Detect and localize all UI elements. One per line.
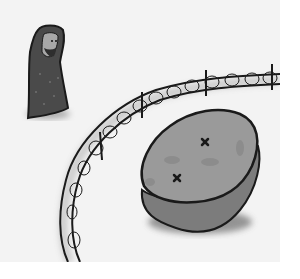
hooded-figure	[26, 26, 70, 120]
large-stone	[142, 110, 260, 232]
illustration-canvas	[0, 0, 280, 262]
scene-svg	[0, 0, 280, 262]
